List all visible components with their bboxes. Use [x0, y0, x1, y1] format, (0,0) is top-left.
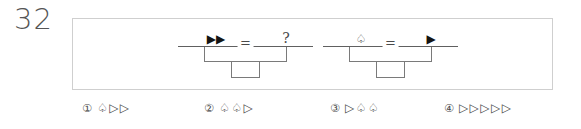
answer-option-2[interactable]: ② ♤♤▷: [204, 101, 254, 115]
option-1-symbols: ♤▷▷: [97, 101, 131, 115]
option-2-symbols: ♤♤▷: [219, 101, 254, 115]
balance-scale-2: ♤ ▶ =: [323, 25, 458, 81]
answer-option-4[interactable]: ④ ▷▷▷▷▷: [444, 101, 513, 115]
filled-right-triangle-icon: ▶: [426, 33, 435, 45]
answer-option-3[interactable]: ③ ▷♤♤: [330, 101, 380, 115]
scale-row: ▶▶ ? = ♤ ▶ =: [73, 19, 554, 91]
answer-options: ① ♤▷▷ ② ♤♤▷ ③ ▷♤♤ ④ ▷▷▷▷▷: [72, 101, 553, 123]
scale-2-left-stem: [349, 47, 350, 62]
question-number: 32: [14, 4, 53, 34]
scale-1-pedestal: [231, 61, 260, 78]
answer-option-1[interactable]: ① ♤▷▷: [82, 101, 131, 115]
question-page: 32 ▶▶ ? = ♤: [0, 0, 581, 129]
scale-2-pedestal: [376, 61, 405, 78]
scale-1-left-stem: [204, 47, 205, 62]
option-3-marker: ③: [330, 102, 340, 115]
scale-1-equals-sign: =: [237, 36, 254, 49]
scale-1-right-stem: [286, 47, 287, 62]
filled-right-triangle-icon-group: ▶▶: [207, 33, 225, 45]
open-spade-icon: ♤: [356, 33, 367, 45]
option-2-marker: ②: [204, 102, 214, 115]
scale-1-right-pan: ?: [262, 25, 310, 45]
option-4-marker: ④: [444, 102, 454, 115]
option-1-marker: ①: [82, 102, 92, 115]
scale-2-equals-sign: =: [382, 36, 399, 49]
balance-scale-1: ▶▶ ? =: [178, 25, 313, 81]
option-3-symbols: ▷♤♤: [345, 101, 380, 115]
scale-2-right-pan: ▶: [407, 25, 455, 45]
option-4-symbols: ▷▷▷▷▷: [459, 101, 513, 115]
stimulus-frame: ▶▶ ? = ♤ ▶ =: [72, 18, 553, 90]
scale-2-right-stem: [431, 47, 432, 62]
question-mark-icon: ?: [282, 31, 290, 45]
